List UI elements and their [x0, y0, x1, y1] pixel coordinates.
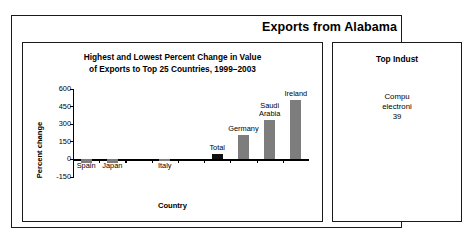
top-industry-panel: Top Indust Compu electroni 39 — [332, 42, 462, 222]
x-tick-mark-6 — [230, 159, 231, 163]
x-tick-mark-8 — [283, 159, 284, 163]
chart-title-line-2: of Exports to Top 25 Countries, 1999–200… — [29, 64, 316, 76]
y-tick-mark-1 — [70, 106, 74, 107]
top-industry-title: Top Indust — [333, 54, 461, 64]
x-tick-mark-5 — [204, 159, 205, 163]
y-tick-mark-3 — [70, 141, 74, 142]
x-axis-title: Country — [23, 201, 322, 210]
bar-germany — [238, 135, 249, 160]
plot-canvas: SpainJapanItalyTotalGermanySaudiArabiaIr… — [73, 89, 309, 177]
top-industry-body: Compu electroni 39 — [333, 92, 461, 122]
bar-total — [212, 154, 223, 160]
page-banner: Exports from Alabama — [12, 16, 401, 38]
top-industry-line-1: Compu — [333, 92, 461, 102]
chart-title: Highest and Lowest Percent Change in Val… — [29, 52, 316, 75]
y-tick-mark-2 — [70, 124, 74, 125]
top-industry-line-3: 39 — [333, 112, 461, 122]
bar-label-germany: Germany — [222, 125, 264, 133]
y-tick-mark-0 — [70, 89, 74, 90]
page-title: Exports from Alabama — [262, 20, 397, 34]
x-tick-mark-7 — [257, 159, 258, 163]
y-tick-mark-4 — [70, 159, 74, 160]
plot-area: Percent change 6004503001500-150 SpainJa… — [23, 85, 322, 223]
bar-ireland — [290, 100, 301, 160]
top-industry-line-2: electroni — [333, 102, 461, 112]
bar-label-italy: Italy — [144, 162, 186, 170]
panels-container: Highest and Lowest Percent Change in Val… — [12, 39, 401, 227]
bar-label-saudi-arabia: SaudiArabia — [249, 102, 291, 119]
y-axis-tick-5: -150 — [56, 173, 71, 181]
chart-panel: Highest and Lowest Percent Change in Val… — [22, 42, 323, 222]
chart-title-line-1: Highest and Lowest Percent Change in Val… — [84, 52, 262, 62]
bar-label-ireland: Ireland — [275, 90, 317, 98]
y-tick-mark-5 — [70, 177, 74, 178]
bar-label-japan: Japan — [91, 162, 133, 170]
bar-label-total: Total — [196, 144, 238, 152]
bar-saudi-arabia — [264, 120, 275, 160]
document-frame: Exports from Alabama Highest and Lowest … — [11, 15, 402, 228]
